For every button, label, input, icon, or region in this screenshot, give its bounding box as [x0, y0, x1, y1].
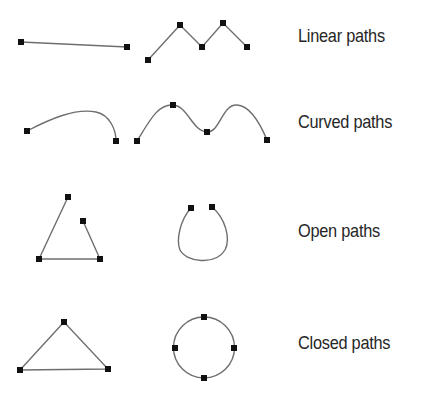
open-polyline-path	[36, 194, 103, 262]
anchor-point-icon	[209, 204, 215, 210]
anchor-point-icon	[18, 39, 24, 45]
path-segment	[21, 42, 127, 47]
linear-zigzag-path	[145, 20, 250, 63]
path-segment	[137, 105, 267, 141]
anchor-point-icon	[105, 366, 111, 372]
anchor-point-icon	[134, 138, 140, 144]
anchor-point-icon	[24, 128, 30, 134]
path-segment	[39, 197, 100, 259]
path-segment	[20, 322, 108, 370]
anchor-point-icon	[244, 44, 250, 50]
label-open-paths: Open paths	[298, 221, 380, 240]
anchor-point-icon	[80, 218, 86, 224]
anchor-point-icon	[97, 256, 103, 262]
anchor-point-icon	[113, 138, 119, 144]
anchor-point-icon	[170, 102, 176, 108]
path-segment	[173, 317, 234, 378]
label-closed-paths: Closed paths	[298, 333, 390, 352]
path-segment	[148, 23, 247, 60]
anchor-point-icon	[172, 345, 178, 351]
anchor-point-icon	[17, 367, 23, 373]
path-segment	[178, 207, 227, 261]
anchor-point-icon	[177, 22, 183, 28]
anchor-point-icon	[204, 129, 210, 135]
curved-wave-path	[134, 102, 270, 144]
curved-simple-path	[24, 111, 119, 144]
anchor-point-icon	[201, 375, 207, 381]
open-loop-path	[178, 204, 227, 261]
anchor-point-icon	[199, 44, 205, 50]
linear-simple-path	[18, 39, 130, 50]
anchor-point-icon	[124, 44, 130, 50]
label-linear-paths: Linear paths	[298, 26, 385, 45]
anchor-point-icon	[201, 314, 207, 320]
anchor-point-icon	[65, 194, 71, 200]
anchor-point-icon	[36, 256, 42, 262]
anchor-point-icon	[145, 57, 151, 63]
path-segment	[27, 111, 116, 141]
anchor-point-icon	[188, 205, 194, 211]
anchor-point-icon	[220, 20, 226, 26]
closed-triangle-path	[17, 319, 111, 373]
anchor-point-icon	[61, 319, 67, 325]
closed-circle-path	[172, 314, 237, 381]
label-curved-paths: Curved paths	[298, 112, 392, 131]
anchor-point-icon	[231, 345, 237, 351]
anchor-point-icon	[264, 137, 270, 143]
